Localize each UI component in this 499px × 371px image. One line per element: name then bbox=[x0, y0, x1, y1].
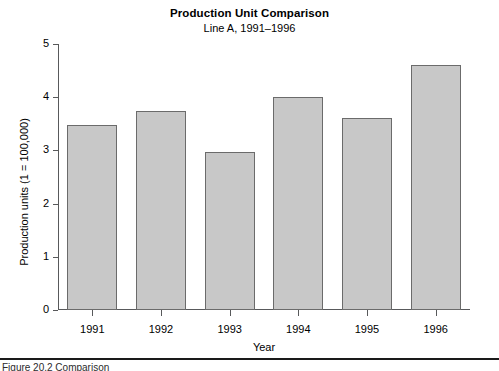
x-tick-label: 1996 bbox=[401, 322, 470, 336]
x-tick bbox=[92, 310, 93, 316]
bar-group: 1992 bbox=[127, 44, 196, 310]
x-tick-label: 1993 bbox=[195, 322, 264, 336]
bar[interactable] bbox=[342, 118, 392, 310]
x-tick bbox=[161, 310, 162, 316]
y-axis-title: Production units (1 = 100,000) bbox=[18, 82, 30, 302]
figure-caption: Figure 20.2 Comparison bbox=[2, 362, 497, 371]
y-tick-label: 4 bbox=[43, 89, 49, 104]
x-tick-label: 1995 bbox=[333, 322, 402, 336]
bar[interactable] bbox=[205, 152, 255, 310]
chart-figure: Production Unit Comparison Line A, 1991–… bbox=[0, 0, 499, 371]
y-tick: 0 bbox=[53, 310, 58, 311]
bar[interactable] bbox=[273, 97, 323, 310]
chart-title: Production Unit Comparison bbox=[0, 6, 499, 20]
bottom-divider bbox=[0, 358, 499, 360]
x-tick bbox=[367, 310, 368, 316]
bar-group: 1996 bbox=[401, 44, 470, 310]
y-tick-label: 1 bbox=[43, 249, 49, 264]
x-tick bbox=[230, 310, 231, 316]
x-tick bbox=[298, 310, 299, 316]
bar[interactable] bbox=[136, 111, 186, 310]
y-tick-label: 3 bbox=[43, 142, 49, 157]
y-tick-label: 2 bbox=[43, 196, 49, 211]
bar-series: 199119921993199419951996 bbox=[58, 44, 470, 310]
x-tick-label: 1992 bbox=[127, 322, 196, 336]
bar-group: 1993 bbox=[195, 44, 264, 310]
y-tick-label: 5 bbox=[43, 36, 49, 51]
bar-group: 1991 bbox=[58, 44, 127, 310]
x-tick-label: 1994 bbox=[264, 322, 333, 336]
bar-group: 1995 bbox=[333, 44, 402, 310]
x-tick-label: 1991 bbox=[58, 322, 127, 336]
plot-area: 012345 199119921993199419951996 bbox=[58, 44, 470, 310]
x-tick bbox=[436, 310, 437, 316]
bar-group: 1994 bbox=[264, 44, 333, 310]
x-axis-title: Year bbox=[58, 341, 470, 353]
chart-title-block: Production Unit Comparison Line A, 1991–… bbox=[0, 6, 499, 35]
chart-subtitle: Line A, 1991–1996 bbox=[0, 21, 499, 35]
y-tick-label: 0 bbox=[43, 302, 49, 317]
bar[interactable] bbox=[67, 125, 117, 310]
bar[interactable] bbox=[411, 65, 461, 310]
